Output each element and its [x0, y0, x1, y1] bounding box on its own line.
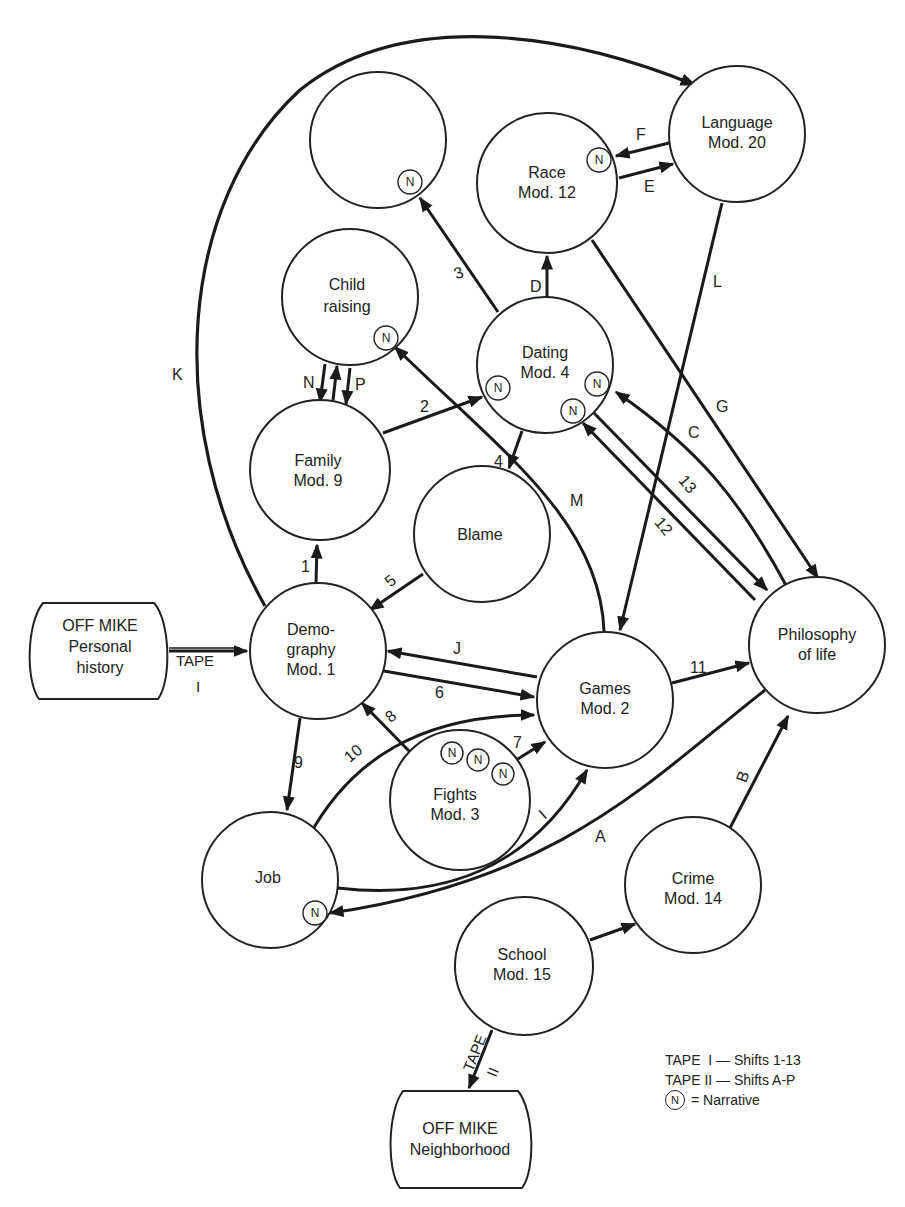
svg-text:Mod. 15: Mod. 15 [493, 966, 551, 983]
svg-text:Mod. 1: Mod. 1 [287, 661, 336, 678]
edge-11 [672, 663, 749, 683]
svg-text:Mod. 14: Mod. 14 [664, 890, 722, 907]
svg-text:Crime: Crime [672, 870, 715, 887]
legend-tape-1: TAPE I — Shifts 1-13 [665, 1050, 801, 1070]
svg-text:M: M [570, 492, 583, 509]
svg-text:N: N [311, 906, 320, 920]
node-family: Family Mod. 9 [250, 400, 390, 540]
svg-text:Mod. 9: Mod. 9 [294, 472, 343, 489]
node-school: School Mod. 15 [455, 897, 593, 1035]
svg-text:C: C [688, 424, 700, 441]
svg-text:Race: Race [528, 164, 565, 181]
svg-text:K: K [172, 366, 183, 383]
svg-text:D: D [530, 278, 542, 295]
edge-12 [583, 423, 755, 600]
node-dating: Dating Mod. 4 N N N [477, 297, 613, 433]
svg-text:A: A [595, 828, 606, 845]
svg-text:1: 1 [301, 558, 310, 575]
edge-1 [316, 545, 317, 583]
narrative-icon: N [665, 1090, 685, 1110]
svg-text:Demo-: Demo- [287, 621, 335, 638]
svg-text:Personal: Personal [68, 638, 131, 655]
svg-text:13: 13 [675, 472, 700, 497]
svg-text:12: 12 [651, 514, 676, 539]
svg-text:II: II [483, 1065, 502, 1079]
svg-text:3: 3 [452, 263, 466, 282]
edge-O [333, 366, 337, 400]
svg-text:E: E [644, 178, 655, 195]
svg-text:P: P [355, 376, 366, 393]
svg-text:I: I [535, 806, 549, 822]
svg-text:OFF MIKE: OFF MIKE [62, 617, 138, 634]
edge-L [620, 203, 722, 630]
svg-text:N: N [303, 374, 315, 391]
node-language: Language Mod. 20 [669, 66, 805, 202]
svg-text:11: 11 [690, 659, 707, 676]
svg-text:B: B [733, 769, 753, 785]
node-child-raising: Child raising N [282, 229, 418, 365]
svg-text:Mod. 12: Mod. 12 [518, 184, 576, 201]
svg-text:raising: raising [323, 298, 370, 315]
node-fights: Fights Mod. 3 N N N [390, 730, 530, 870]
svg-text:N: N [382, 331, 391, 345]
svg-text:Dating: Dating [522, 344, 568, 361]
node-off-mike-neighborhood: OFF MIKE Neighborhood [391, 1091, 532, 1188]
svg-text:I: I [196, 678, 200, 695]
svg-text:8: 8 [382, 707, 400, 726]
svg-text:N: N [474, 753, 483, 767]
svg-text:of life: of life [798, 646, 836, 663]
svg-text:Fights: Fights [433, 786, 477, 803]
svg-text:F: F [636, 126, 646, 143]
svg-text:Games: Games [579, 680, 631, 697]
svg-text:N: N [593, 377, 602, 391]
edge-A [590, 924, 635, 940]
svg-text:Child: Child [329, 276, 365, 293]
svg-text:L: L [713, 273, 722, 290]
svg-text:Mod. 3: Mod. 3 [431, 806, 480, 823]
edge-5 [370, 574, 423, 610]
legend-tape-2: TAPE II — Shifts A-P [665, 1070, 801, 1090]
svg-text:Language: Language [701, 114, 772, 131]
edge-E [619, 164, 673, 178]
node-philosophy: Philosophy of life [749, 577, 885, 713]
node-job: Job N [202, 812, 338, 948]
svg-text:history: history [76, 659, 123, 676]
svg-text:Job: Job [255, 869, 281, 886]
svg-text:N: N [448, 746, 457, 760]
svg-text:9: 9 [294, 754, 303, 771]
svg-text:G: G [716, 398, 728, 415]
svg-text:Neighborhood: Neighborhood [410, 1141, 511, 1158]
edge-C [616, 392, 787, 587]
edge-F [616, 143, 669, 156]
svg-text:OFF MIKE: OFF MIKE [422, 1120, 498, 1137]
svg-text:Mod. 20: Mod. 20 [708, 134, 766, 151]
svg-text:Family: Family [294, 452, 341, 469]
node-off-mike-personal-history: OFF MIKE Personal history [30, 603, 168, 699]
node-blame: Blame [414, 466, 550, 602]
svg-text:graphy: graphy [287, 641, 336, 658]
svg-text:6: 6 [435, 684, 444, 701]
svg-text:7: 7 [513, 734, 522, 751]
svg-text:10: 10 [341, 741, 366, 766]
edge-13 [594, 413, 767, 590]
svg-text:J: J [453, 640, 461, 657]
svg-text:Mod. 4: Mod. 4 [521, 364, 570, 381]
svg-text:Philosophy: Philosophy [778, 626, 856, 643]
svg-text:N: N [499, 767, 508, 781]
edge-6 [378, 670, 534, 697]
svg-text:N: N [494, 381, 503, 395]
edge-N [320, 364, 325, 402]
svg-text:TAPE: TAPE [176, 652, 214, 669]
edge-J [388, 651, 537, 677]
node-crime: Crime Mod. 14 [625, 817, 761, 953]
legend-narrative: N = Narrative [665, 1090, 801, 1110]
svg-text:Blame: Blame [457, 526, 502, 543]
legend: TAPE I — Shifts 1-13 TAPE II — Shifts A-… [665, 1050, 801, 1110]
svg-text:School: School [498, 946, 547, 963]
node-demography: Demo- graphy Mod. 1 [250, 583, 386, 719]
svg-text:N: N [595, 153, 604, 167]
svg-text:N: N [569, 404, 578, 418]
svg-text:Mod. 2: Mod. 2 [581, 700, 630, 717]
edge-P [346, 368, 350, 404]
node-empty-top: N [310, 72, 446, 208]
